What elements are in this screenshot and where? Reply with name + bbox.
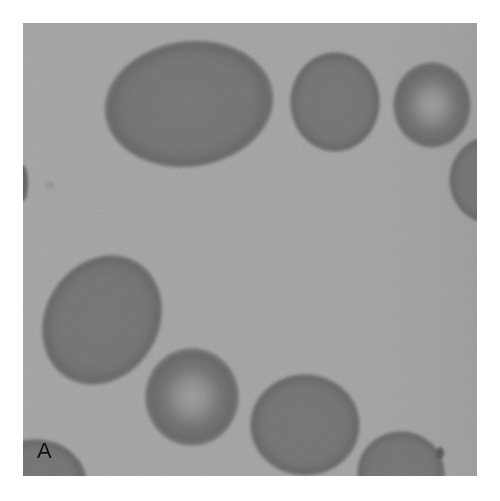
- panel-label: A: [37, 440, 52, 462]
- film-grain: [23, 23, 477, 476]
- micrograph-figure: A: [23, 23, 477, 476]
- blood-cell-micrograph: [23, 23, 477, 476]
